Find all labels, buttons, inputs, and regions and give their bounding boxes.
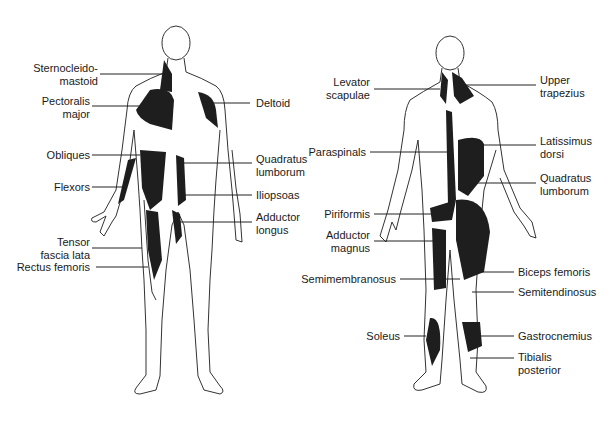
label-line: fascia lata: [10, 249, 90, 262]
label-flexors: Flexors: [10, 181, 90, 194]
label-line: Piriformis: [300, 208, 370, 221]
label-gastrocnemius: Gastrocnemius: [518, 330, 592, 343]
label-line: Deltoid: [256, 97, 290, 110]
tensor-rectus-region: [146, 210, 162, 280]
piriformis-region: [430, 200, 456, 222]
label-line: mastoid: [10, 75, 98, 88]
label-line: Semimembranosus: [300, 273, 396, 286]
label-obliques: Obliques: [10, 149, 90, 162]
label-line: trapezius: [540, 87, 585, 100]
label-line: major: [10, 108, 90, 121]
label-rectus-femoris: Rectus femoris: [10, 261, 90, 274]
latissimus-region: [458, 138, 484, 196]
label-line: Gastrocnemius: [518, 330, 592, 343]
pectoralis-region: [136, 89, 174, 130]
adductor-longus-region: [172, 210, 182, 244]
label-line: Adductor: [300, 229, 370, 242]
label-line: Sternocleido-: [10, 62, 98, 75]
label-biceps-femoris: Biceps femoris: [518, 266, 590, 279]
label-line: scapulae: [300, 89, 370, 102]
gluteal-hamstring-region: [456, 200, 490, 280]
label-line: Latissimus: [540, 135, 592, 148]
label-line: Tibialis: [518, 351, 561, 364]
label-semitendinosus: Semitendinosus: [518, 286, 596, 299]
label-line: magnus: [300, 242, 370, 255]
flexors-region: [118, 158, 136, 204]
label-line: Soleus: [300, 330, 400, 343]
label-piriformis: Piriformis: [300, 208, 370, 221]
label-line: Biceps femoris: [518, 266, 590, 279]
label-iliopsoas: Iliopsoas: [256, 189, 299, 202]
label-adductor-longus: Adductor longus: [256, 211, 300, 236]
label-tibialis-posterior: Tibialis posterior: [518, 351, 561, 376]
label-line: dorsi: [540, 148, 592, 161]
label-sternocleidomastoid: Sternocleido- mastoid: [10, 62, 98, 87]
label-line: lumborum: [256, 166, 307, 179]
label-line: Obliques: [10, 149, 90, 162]
paraspinals-region: [446, 110, 456, 205]
label-levator-scapulae: Levator scapulae: [300, 76, 370, 101]
label-paraspinals: Paraspinals: [300, 146, 366, 159]
label-line: Paraspinals: [300, 146, 366, 159]
label-line: longus: [256, 224, 300, 237]
label-quadratus-lumborum-posterior: Quadratus lumborum: [540, 172, 591, 197]
label-deltoid: Deltoid: [256, 97, 290, 110]
label-latissimus-dorsi: Latissimus dorsi: [540, 135, 592, 160]
label-line: Iliopsoas: [256, 189, 299, 202]
label-line: Adductor: [256, 211, 300, 224]
label-line: Flexors: [10, 181, 90, 194]
label-upper-trapezius: Upper trapezius: [540, 74, 585, 99]
sternocleidomastoid-region: [160, 60, 172, 92]
label-line: lumborum: [540, 185, 591, 198]
label-line: posterior: [518, 364, 561, 377]
adductor-semimembranosus-region: [432, 228, 446, 290]
label-line: Pectoralis: [10, 95, 90, 108]
gastrocnemius-region: [462, 322, 482, 352]
soleus-region: [426, 318, 440, 366]
label-line: Upper: [540, 74, 585, 87]
label-line: Tensor: [10, 236, 90, 249]
label-tensor-fascia-lata: Tensor fascia lata: [10, 236, 90, 261]
label-adductor-magnus: Adductor magnus: [300, 229, 370, 254]
label-line: Semitendinosus: [518, 286, 596, 299]
label-line: Quadratus: [540, 172, 591, 185]
deltoid-region: [198, 92, 218, 128]
label-pectoralis-major: Pectoralis major: [10, 95, 90, 120]
label-line: Rectus femoris: [10, 261, 90, 274]
label-line: Levator: [300, 76, 370, 89]
label-soleus: Soleus: [300, 330, 400, 343]
label-semimembranosus: Semimembranosus: [300, 273, 396, 286]
